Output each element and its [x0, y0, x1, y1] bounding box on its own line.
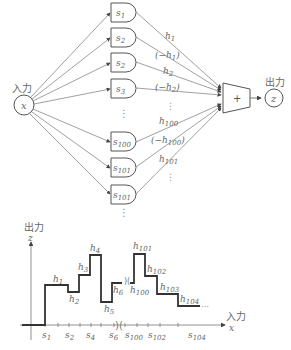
svg-text:h102: h102: [147, 264, 167, 276]
sum-node: +: [223, 83, 250, 113]
output-label: 出力: [265, 76, 285, 88]
output-edges: [136, 12, 221, 194]
x-tick-labels: s1 s2 s4 s6 s100 s102 s104: [42, 330, 206, 342]
y-axis-var: z: [27, 233, 33, 243]
curve-ellipsis: …: [201, 300, 209, 309]
input-label: 入力: [12, 82, 32, 94]
unit-s3: s3: [111, 79, 136, 98]
unit-s101-b: s101: [111, 185, 136, 204]
step-plot: 出力 z 入力 x s1 s2 s4 s6: [20, 221, 246, 342]
output-var: z: [270, 93, 277, 104]
svg-text:h101: h101: [133, 241, 152, 253]
svg-text:s102: s102: [148, 330, 167, 342]
weight-neg-h100: (−h100): [151, 135, 185, 147]
sum-symbol: +: [233, 93, 241, 104]
svg-text:h103: h103: [160, 282, 180, 294]
input-edges: [30, 13, 110, 194]
svg-text:h4: h4: [90, 243, 100, 255]
unit-s2-a: s2: [111, 28, 136, 47]
unit-s101-a: s101: [111, 158, 136, 177]
svg-text:h3: h3: [78, 262, 89, 274]
weight-h101: h101: [159, 154, 178, 166]
svg-text:h6: h6: [113, 285, 124, 297]
unit-gates: s1 s2 s2 s3 ⋮ s100 s101 s101 ⋮: [111, 3, 136, 218]
x-axis-label: 入力: [226, 310, 246, 322]
svg-text:s1: s1: [42, 330, 51, 342]
svg-text:h104: h104: [180, 294, 199, 306]
x-axis-break: )(: [115, 320, 123, 331]
unit-s100: s100: [111, 132, 136, 151]
svg-text:s104: s104: [188, 330, 206, 342]
svg-text:h5: h5: [104, 304, 115, 316]
svg-text:h2: h2: [69, 294, 80, 306]
weights-ellipsis-bottom: ⋮: [166, 172, 175, 182]
svg-text:s4: s4: [86, 330, 95, 342]
y-axis-label: 出力: [24, 221, 44, 233]
svg-text:h100: h100: [130, 285, 150, 297]
units-ellipsis-top: ⋮: [119, 108, 129, 119]
weight-h2: h2: [163, 66, 174, 78]
weight-neg-h2: (−h2): [155, 82, 180, 94]
weight-h100: h100: [159, 116, 179, 128]
x-axis-var: x: [229, 323, 234, 333]
weight-neg-h1: (−h1): [155, 50, 180, 62]
units-ellipsis-bottom: ⋮: [119, 207, 129, 218]
weight-h1: h1: [165, 31, 175, 43]
input-node: 入力 x: [12, 82, 34, 115]
svg-text:s6: s6: [109, 330, 119, 342]
unit-s2-b: s2: [111, 53, 136, 72]
input-var: x: [21, 100, 27, 111]
svg-text:s100: s100: [125, 330, 144, 342]
weights-ellipsis-top: ⋮: [166, 101, 175, 111]
svg-text:s2: s2: [65, 330, 75, 342]
unit-s1: s1: [111, 3, 136, 22]
output-node: 出力 z: [265, 76, 285, 107]
